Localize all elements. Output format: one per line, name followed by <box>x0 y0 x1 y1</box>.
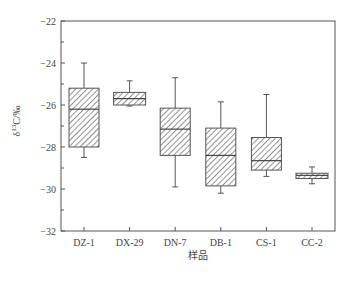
iqr-box <box>160 108 190 155</box>
iqr-box <box>251 138 281 171</box>
y-tick-label: −24 <box>40 58 56 69</box>
box-dz-1 <box>69 63 99 158</box>
x-tick-label: DX-29 <box>116 237 144 248</box>
box-db-1 <box>206 102 236 193</box>
x-tick-label: DZ-1 <box>73 237 95 248</box>
iqr-box <box>69 88 99 147</box>
y-tick-label: −28 <box>40 142 56 153</box>
y-tick-label: −22 <box>40 16 56 27</box>
x-tick-label: DN-7 <box>164 237 187 248</box>
box-cs-1 <box>251 95 281 177</box>
x-tick-label: CS-1 <box>256 237 277 248</box>
x-tick-label: CC-2 <box>301 237 323 248</box>
plot-area <box>61 21 335 231</box>
y-tick-label: −26 <box>40 100 56 111</box>
plot-frame <box>61 21 335 231</box>
x-axis-title: 样品 <box>188 249 208 261</box>
x-axis-ticks: DZ-1DX-29DN-7DB-1CS-1CC-2 <box>73 227 323 248</box>
y-tick-label: −30 <box>40 184 56 195</box>
y-axis-title-suffix: C/‰ <box>11 105 22 124</box>
y-axis-title: δ13C/‰ <box>10 105 22 136</box>
box-dn-7 <box>160 78 190 187</box>
box-dx-29 <box>114 81 146 106</box>
boxes <box>69 63 328 193</box>
box-plot-chart: −22−24−26−28−30−32 DZ-1DX-29DN-7DB-1CS-1… <box>0 0 348 282</box>
x-tick-label: DB-1 <box>210 237 232 248</box>
y-tick-label: −32 <box>40 226 56 237</box>
box-cc-2 <box>296 167 328 184</box>
iqr-box <box>206 128 236 186</box>
